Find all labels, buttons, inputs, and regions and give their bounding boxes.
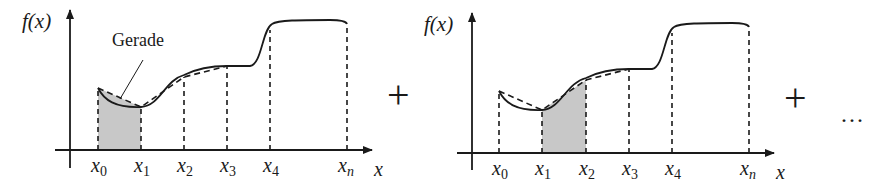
shaded-trapezoid-x1-x2 <box>542 80 586 153</box>
tick-labels: x0 x1 x2 x3 x4 xn <box>90 154 354 179</box>
gerade-label: Gerade <box>112 30 164 50</box>
svg-text:x3: x3 <box>219 154 236 179</box>
svg-text:x4: x4 <box>262 154 279 179</box>
svg-text:x0: x0 <box>90 154 107 179</box>
function-curve <box>499 23 749 110</box>
svg-text:x3: x3 <box>621 157 638 182</box>
svg-text:xn: xn <box>739 157 756 182</box>
svg-text:x1: x1 <box>534 157 551 182</box>
panel-1: Gerade f(x) x x0 x1 x2 x3 x4 xn <box>22 9 383 180</box>
x-axis-label: x <box>775 161 785 183</box>
ellipsis: ··· <box>840 107 864 133</box>
plus-sign-1: + <box>387 72 410 117</box>
gerade-pointer-line <box>120 60 143 99</box>
y-axis-label: f(x) <box>22 9 51 33</box>
svg-text:x2: x2 <box>176 154 193 179</box>
x-axis-label: x <box>373 158 383 180</box>
svg-text:xn: xn <box>337 154 354 179</box>
svg-text:x1: x1 <box>133 154 150 179</box>
plus-sign-2: + <box>784 75 807 120</box>
svg-text:x0: x0 <box>491 157 508 182</box>
svg-text:x4: x4 <box>664 157 681 182</box>
svg-text:x2: x2 <box>578 157 595 182</box>
grid-dashes <box>499 27 749 153</box>
tick-labels: x0 x1 x2 x3 x4 xn <box>491 157 756 182</box>
trapezoid-rule-diagram: Gerade f(x) x x0 x1 x2 x3 x4 xn + <box>0 0 894 195</box>
y-axis-label: f(x) <box>424 12 453 36</box>
panel-2: f(x) x x0 x1 x2 x3 x4 xn <box>424 12 785 183</box>
